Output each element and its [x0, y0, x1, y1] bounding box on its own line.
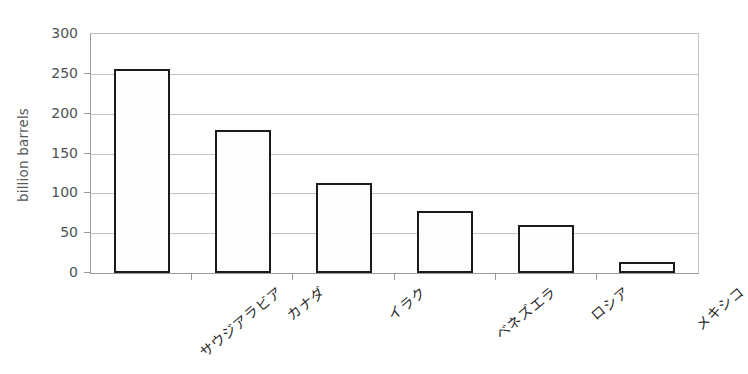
plot-area: [90, 33, 699, 274]
gridline: [91, 233, 698, 234]
bar: [417, 211, 473, 273]
x-axis-tick-mark: [191, 273, 192, 280]
bar: [215, 130, 271, 273]
x-axis-tick-mark: [394, 273, 395, 280]
gridline: [91, 193, 698, 194]
y-axis-tick-label: 150: [18, 145, 78, 161]
x-axis-tick-mark: [596, 273, 597, 280]
x-axis-category-label: ロシア: [586, 281, 632, 324]
x-axis-tick-mark: [292, 273, 293, 280]
x-axis-tick-mark: [495, 273, 496, 280]
bar: [316, 183, 372, 273]
y-axis-tick-label: 200: [18, 105, 78, 121]
y-axis-tick-label: 250: [18, 65, 78, 81]
y-axis-tick-label: 50: [18, 224, 78, 240]
x-axis-category-label: ベネズエラ: [491, 281, 559, 343]
gridline: [91, 74, 698, 75]
bar: [114, 69, 170, 273]
x-axis-category-label: メキシコ: [690, 281, 747, 334]
gridline: [91, 114, 698, 115]
bar: [619, 262, 675, 273]
x-axis-category-label: イラク: [383, 281, 429, 324]
y-axis-tick-label: 300: [18, 25, 78, 41]
x-axis-category-label: カナダ: [282, 281, 328, 324]
x-axis-category-label: サウジアラビア: [195, 281, 286, 362]
y-axis-tick-label: 100: [18, 184, 78, 200]
gridline: [91, 154, 698, 155]
bar: [518, 225, 574, 273]
y-axis-tick-label: 0: [18, 264, 78, 280]
